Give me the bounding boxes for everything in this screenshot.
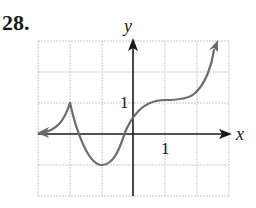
function-graph: y x 1 1	[0, 0, 256, 208]
axes	[38, 38, 232, 196]
x-axis-label: x	[235, 124, 244, 144]
y-axis-label: y	[122, 16, 132, 36]
y-tick-label: 1	[120, 93, 129, 112]
x-tick-label: 1	[161, 139, 170, 158]
